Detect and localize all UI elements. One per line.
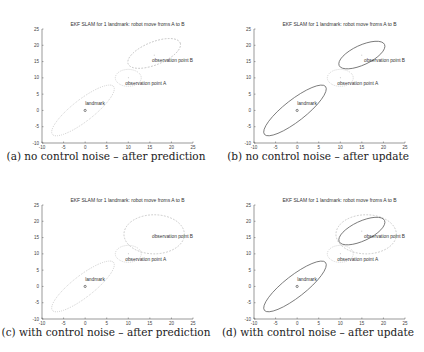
y-tick-label: -5 bbox=[35, 124, 39, 129]
caption-d: (d) with control noise – after update bbox=[212, 326, 424, 338]
panel-c: EKF SLAM for 1 landmark: robot move from… bbox=[0, 176, 212, 352]
point-b-marker bbox=[361, 55, 362, 56]
chart-title: EKF SLAM for 1 landmark: robot move from… bbox=[70, 21, 185, 27]
point-label: landmark bbox=[85, 101, 105, 106]
covariance-ellipse bbox=[46, 78, 120, 143]
covariance-ellipse bbox=[46, 254, 120, 319]
panel-d: EKF SLAM for 1 landmark: robot move from… bbox=[212, 176, 424, 352]
caption-a: (a) no control noise – after prediction bbox=[0, 150, 212, 162]
y-tick-label: 0 bbox=[248, 284, 251, 289]
caption-b: (b) no control noise – after update bbox=[212, 150, 424, 162]
y-tick-label: 0 bbox=[248, 108, 251, 113]
landmark-marker bbox=[296, 109, 298, 111]
y-tick-label: 10 bbox=[34, 251, 40, 256]
panel-a: EKF SLAM for 1 landmark: robot move from… bbox=[0, 0, 212, 176]
point-b-marker bbox=[361, 231, 362, 232]
chart-title: EKF SLAM for 1 landmark: robot move from… bbox=[70, 197, 185, 203]
point-label: observation point A bbox=[125, 81, 167, 86]
point-label: observation point A bbox=[337, 81, 379, 86]
point-label: landmark bbox=[297, 101, 317, 106]
point-label: landmark bbox=[85, 277, 105, 282]
covariance-ellipse bbox=[258, 78, 332, 143]
point-label: observation point B bbox=[364, 234, 405, 239]
y-tick-label: -5 bbox=[35, 300, 39, 305]
y-tick-label: 10 bbox=[246, 251, 252, 256]
panel-b: EKF SLAM for 1 landmark: robot move from… bbox=[212, 0, 424, 176]
y-tick-label: 15 bbox=[34, 59, 40, 64]
point-label: observation point B bbox=[152, 234, 193, 239]
y-tick-label: -10 bbox=[244, 317, 251, 322]
y-tick-label: 20 bbox=[246, 219, 252, 224]
y-tick-label: 0 bbox=[36, 284, 39, 289]
point-a-marker bbox=[128, 253, 129, 254]
y-tick-label: 25 bbox=[34, 203, 40, 208]
y-tick-label: 10 bbox=[246, 75, 252, 80]
y-tick-label: 5 bbox=[36, 92, 39, 97]
y-tick-label: 20 bbox=[34, 219, 40, 224]
y-tick-label: -10 bbox=[244, 141, 251, 146]
y-tick-label: 15 bbox=[246, 235, 252, 240]
point-a-marker bbox=[340, 253, 341, 254]
point-label: landmark bbox=[297, 277, 317, 282]
chart-title: EKF SLAM for 1 landmark: robot move from… bbox=[282, 21, 397, 27]
y-tick-label: 25 bbox=[34, 27, 40, 32]
y-tick-label: 5 bbox=[248, 268, 251, 273]
point-b-marker bbox=[154, 55, 155, 56]
y-tick-label: 0 bbox=[36, 108, 39, 113]
y-tick-label: -5 bbox=[247, 300, 251, 305]
y-tick-label: 5 bbox=[248, 92, 251, 97]
y-tick-label: 25 bbox=[246, 27, 252, 32]
point-label: observation point A bbox=[337, 257, 379, 262]
y-tick-label: -10 bbox=[32, 317, 39, 322]
point-label: observation point B bbox=[152, 58, 193, 63]
point-a-marker bbox=[128, 77, 129, 78]
covariance-ellipse bbox=[258, 254, 332, 319]
chart-title: EKF SLAM for 1 landmark: robot move from… bbox=[282, 197, 397, 203]
covariance-ellipse bbox=[124, 32, 185, 74]
landmark-marker bbox=[84, 285, 86, 287]
y-tick-label: 20 bbox=[246, 43, 252, 48]
point-label: observation point B bbox=[364, 58, 405, 63]
y-tick-label: 5 bbox=[36, 268, 39, 273]
landmark-marker bbox=[84, 109, 86, 111]
y-tick-label: 20 bbox=[34, 43, 40, 48]
y-tick-label: -5 bbox=[247, 124, 251, 129]
caption-c: (c) with control noise – after predictio… bbox=[0, 326, 212, 338]
y-tick-label: 15 bbox=[34, 235, 40, 240]
point-label: observation point A bbox=[125, 257, 167, 262]
y-tick-label: -10 bbox=[32, 141, 39, 146]
y-tick-label: 15 bbox=[246, 59, 252, 64]
y-tick-label: 25 bbox=[246, 203, 252, 208]
y-tick-label: 10 bbox=[34, 75, 40, 80]
landmark-marker bbox=[296, 285, 298, 287]
point-a-marker bbox=[340, 77, 341, 78]
